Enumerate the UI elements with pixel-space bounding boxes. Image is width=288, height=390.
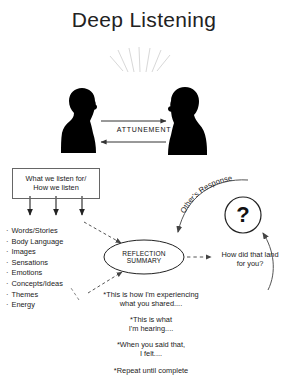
land-question-text: How did that land for you? — [214, 250, 286, 268]
note-line2: I felt.... — [76, 349, 226, 358]
attunement-label: ATTUNEMENT — [94, 126, 194, 133]
listen-for-list: Words/Stories Body Language Images Sensa… — [6, 226, 63, 311]
list-item: Body Language — [6, 237, 63, 246]
list-item: Images — [6, 247, 63, 256]
note-line1: *Repeat until complete — [76, 366, 226, 375]
note-line1: *This is what — [76, 315, 226, 324]
person-silhouette-left — [61, 88, 97, 153]
list-item: Concepts/Ideas — [6, 279, 63, 288]
sunburst-rays — [110, 47, 170, 72]
note-line1: *This is how I'm experiencing — [76, 290, 226, 299]
reflection-note: *This is how I'm experiencing what you s… — [76, 290, 226, 308]
listen-for-box: What we listen for/ How we listen — [12, 168, 100, 199]
reflection-note: *Repeat until complete — [76, 366, 226, 375]
others-response-label: Other's Response — [178, 174, 232, 215]
land-question-line1: How did that land — [214, 250, 286, 259]
dashed-arrow-upper-into-ellipse — [84, 222, 121, 243]
listen-box-line2: How we listen — [15, 183, 97, 192]
list-item: Energy — [6, 300, 63, 309]
note-line1: *When you said that, — [76, 340, 226, 349]
person-silhouette-right — [168, 87, 207, 155]
list-item: Words/Stories — [6, 226, 63, 235]
question-mark-glyph: ? — [226, 198, 260, 232]
list-item: Themes — [6, 290, 63, 299]
list-item: Sensations — [6, 258, 63, 267]
reflection-summary-label: REFLECTION SUMMARY — [106, 250, 182, 264]
listen-box-line1: What we listen for/ — [15, 174, 97, 183]
reflection-note: *This is what I'm hearing.... — [76, 315, 226, 333]
list-item: Emotions — [6, 268, 63, 277]
deep-listening-diagram: Deep Listening — [0, 0, 288, 390]
note-line2: what you shared.... — [76, 299, 226, 308]
reflection-note: *When you said that, I felt.... — [76, 340, 226, 358]
note-line2: I'm hearing.... — [76, 324, 226, 333]
land-question-line2: for you? — [214, 259, 286, 268]
